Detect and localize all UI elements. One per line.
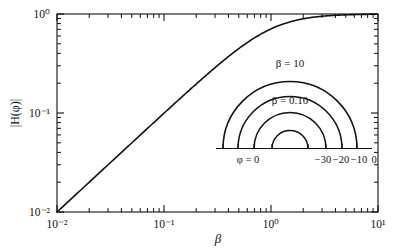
inset-tick-label--10: −10 bbox=[351, 154, 367, 165]
x-tick-label: 10⁻¹ bbox=[154, 218, 176, 230]
inset-arc-label-beta-10: β = 10 bbox=[276, 57, 305, 69]
inset-arc-label-beta-0-10: β = 0.10 bbox=[272, 94, 309, 106]
x-tick-label: 10¹ bbox=[371, 218, 387, 230]
inset-tick-label--30: −30 bbox=[315, 154, 331, 165]
inset-tick-label-0: 0 bbox=[371, 154, 376, 165]
y-tick-label: 10⁻² bbox=[29, 206, 51, 218]
figure-canvas: 10⁻²10⁻¹10⁰10¹ 10⁻²10⁻¹10⁰ β |H(φ)| β = … bbox=[0, 0, 398, 252]
inset-label-phi-zero: φ = 0 bbox=[237, 154, 259, 165]
canvas-background bbox=[0, 0, 398, 252]
y-tick-label: 10⁻¹ bbox=[29, 107, 51, 119]
x-tick-label: 10⁻² bbox=[47, 218, 69, 230]
inset-tick-label--20: −20 bbox=[333, 154, 349, 165]
x-axis-label: β bbox=[214, 231, 222, 246]
x-tick-label: 10⁰ bbox=[263, 218, 280, 230]
y-tick-label: 10⁰ bbox=[34, 8, 51, 20]
y-axis-label: |H(φ)| bbox=[8, 99, 22, 127]
chart-svg: 10⁻²10⁻¹10⁰10¹ 10⁻²10⁻¹10⁰ β |H(φ)| β = … bbox=[0, 0, 398, 252]
